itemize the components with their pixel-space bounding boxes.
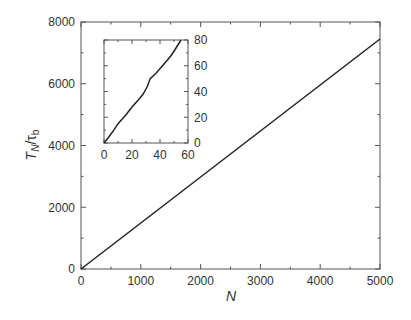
- y-tick-label: 6000: [48, 77, 75, 91]
- y-tick-label: 80: [194, 33, 208, 47]
- x-tick-label: 0: [101, 148, 108, 162]
- x-tick-label: 3000: [247, 274, 274, 288]
- chart: 01000200030004000500002000400060008000 0…: [0, 0, 411, 320]
- x-tick-label: 4000: [307, 274, 334, 288]
- y-tick-label: 2000: [48, 201, 75, 215]
- inset-plot: 0204060020406080: [101, 33, 208, 162]
- y-tick-label: 8000: [48, 15, 75, 29]
- x-tick-label: 1000: [127, 274, 154, 288]
- x-axis-label: N: [226, 288, 237, 304]
- y-axis-label: TN/τb: [23, 129, 41, 160]
- y-tick-label: 20: [194, 111, 208, 125]
- y-tick-label: 0: [194, 136, 201, 150]
- y-tick-label: 40: [194, 85, 208, 99]
- y-tick-label: 60: [194, 59, 208, 73]
- x-tick-label: 0: [78, 274, 85, 288]
- x-tick-label: 60: [181, 148, 195, 162]
- data-line: [104, 40, 181, 143]
- x-tick-label: 40: [153, 148, 167, 162]
- x-tick-label: 5000: [367, 274, 394, 288]
- x-tick-label: 2000: [187, 274, 214, 288]
- x-tick-label: 20: [125, 148, 139, 162]
- plot-frame: [104, 40, 188, 143]
- y-tick-label: 0: [68, 262, 75, 276]
- y-tick-label: 4000: [48, 139, 75, 153]
- plot-frame: [81, 22, 380, 269]
